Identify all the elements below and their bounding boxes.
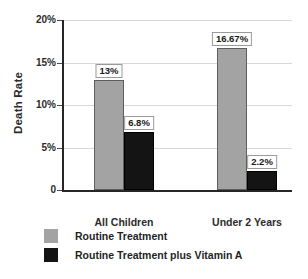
legend-label: Routine Treatment plus Vitamin A [75, 249, 242, 261]
y-tick-label: 15% [22, 57, 56, 68]
legend-item: Routine Treatment [44, 226, 242, 245]
legend-swatch-icon [44, 248, 58, 262]
bar-value-label: 13% [95, 64, 122, 78]
y-tick-label: 20% [22, 14, 56, 25]
y-tick-label: 10% [22, 99, 56, 110]
bar [94, 80, 124, 191]
bar-chart: Death Rate 05%10%15%20% 13%6.8%16.67%2.2… [0, 0, 308, 279]
bar-value-label: 6.8% [124, 116, 154, 130]
plot-area: 05%10%15%20% 13%6.8%16.67%2.2% All Child… [62, 20, 292, 190]
bar [124, 132, 154, 190]
y-tick-label: 0 [22, 184, 56, 195]
tick-mark [57, 63, 62, 64]
bar [217, 48, 247, 190]
x-axis-line [62, 190, 292, 192]
chart-legend: Routine TreatmentRoutine Treatment plus … [44, 226, 242, 264]
tick-mark [57, 148, 62, 149]
gridline [64, 20, 292, 21]
legend-label: Routine Treatment [75, 230, 167, 242]
bar-value-label: 16.67% [212, 32, 252, 46]
bar-value-label: 2.2% [247, 155, 277, 169]
legend-swatch-icon [44, 229, 58, 243]
legend-item: Routine Treatment plus Vitamin A [44, 245, 242, 264]
tick-mark [57, 20, 62, 21]
tick-mark [57, 105, 62, 106]
bar [247, 171, 277, 190]
tick-mark [57, 190, 62, 191]
y-tick-label: 5% [22, 142, 56, 153]
